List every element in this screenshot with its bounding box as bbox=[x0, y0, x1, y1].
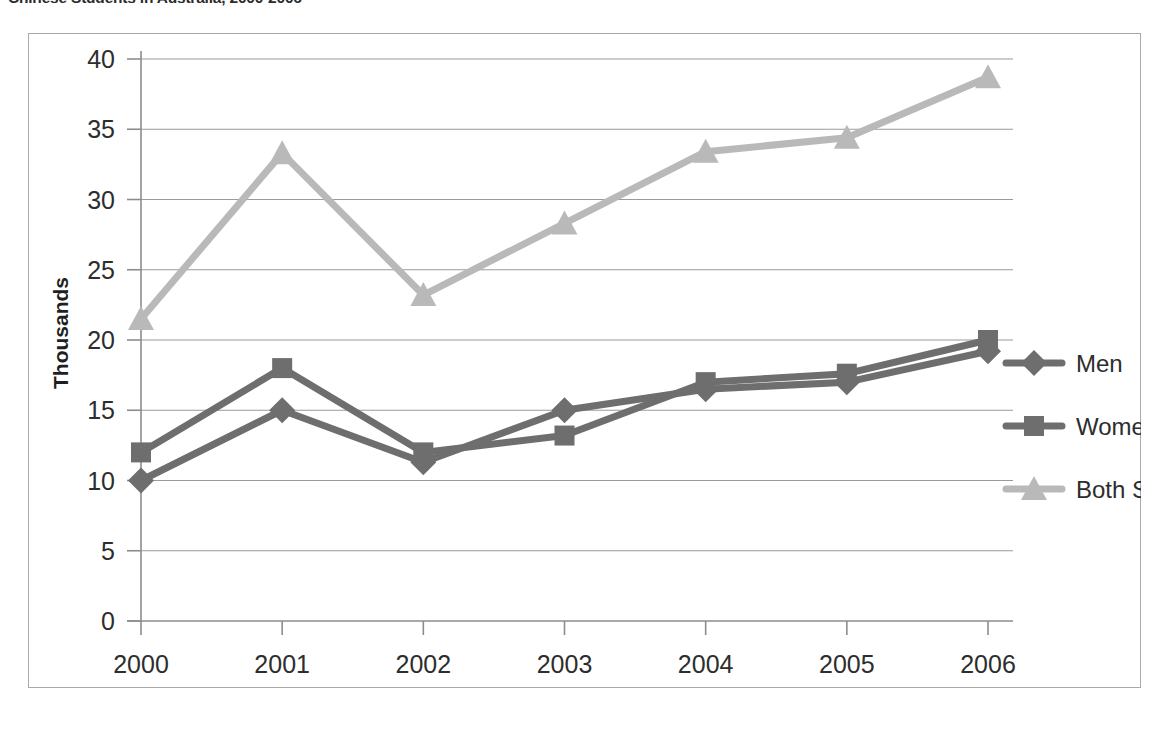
y-axis-title: Thousands bbox=[49, 277, 72, 389]
square-marker bbox=[413, 442, 433, 462]
square-marker bbox=[978, 330, 998, 350]
y-tick-label: 0 bbox=[101, 607, 115, 635]
y-tick-label: 5 bbox=[101, 537, 115, 565]
data-series bbox=[131, 330, 998, 462]
x-tick-label: 2006 bbox=[960, 650, 1016, 678]
gridlines-group bbox=[141, 59, 1013, 551]
diamond-marker bbox=[1021, 350, 1047, 376]
y-tick-label: 25 bbox=[87, 256, 115, 284]
y-tick-label: 40 bbox=[87, 45, 115, 73]
x-tick-label: 2002 bbox=[396, 650, 452, 678]
y-tick-label: 35 bbox=[87, 115, 115, 143]
diamond-marker bbox=[269, 397, 295, 423]
y-tick-labels-group: 0510152025303540 bbox=[87, 45, 115, 635]
square-marker bbox=[272, 358, 292, 378]
legend-label: Men bbox=[1076, 350, 1123, 377]
square-marker bbox=[837, 364, 857, 384]
x-tick-label: 2004 bbox=[678, 650, 734, 678]
legend-item[interactable]: Men bbox=[1006, 350, 1123, 377]
diamond-marker bbox=[128, 468, 154, 494]
legend-item[interactable]: Both Sexes bbox=[1006, 476, 1141, 503]
x-tick-labels-group: 2000200120022003200420052006 bbox=[113, 650, 1016, 678]
square-marker bbox=[131, 442, 151, 462]
legend-label: Women bbox=[1076, 413, 1141, 440]
chart-legend: MenWomenBoth Sexes bbox=[1006, 350, 1141, 503]
x-tick-label: 2001 bbox=[254, 650, 310, 678]
y-tick-label: 30 bbox=[87, 186, 115, 214]
axes-group bbox=[127, 51, 1013, 635]
data-series bbox=[128, 338, 1001, 493]
square-marker bbox=[696, 372, 716, 392]
data-series bbox=[128, 64, 1001, 330]
series-line bbox=[141, 77, 988, 319]
square-marker bbox=[1024, 416, 1044, 436]
square-marker bbox=[555, 426, 575, 446]
x-tick-label: 2003 bbox=[537, 650, 593, 678]
data-series-group bbox=[128, 64, 1001, 493]
triangle-marker bbox=[975, 64, 1001, 88]
y-tick-label: 10 bbox=[87, 467, 115, 495]
y-tick-label: 15 bbox=[87, 396, 115, 424]
legend-item[interactable]: Women bbox=[1006, 413, 1141, 440]
triangle-marker bbox=[269, 140, 295, 164]
x-tick-label: 2000 bbox=[113, 650, 169, 678]
chart-title: Chinese Students in Australia, 2000-2006 bbox=[8, 0, 302, 7]
diamond-marker bbox=[552, 397, 578, 423]
y-tick-label: 20 bbox=[87, 326, 115, 354]
line-chart: 0510152025303540 20002001200220032004200… bbox=[28, 33, 1141, 688]
legend-label: Both Sexes bbox=[1076, 476, 1141, 503]
x-tick-label: 2005 bbox=[819, 650, 875, 678]
